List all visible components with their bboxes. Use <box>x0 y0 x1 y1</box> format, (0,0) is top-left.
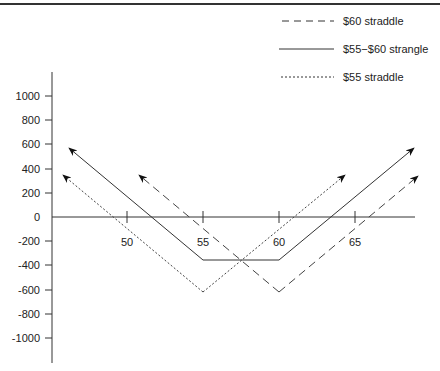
svg-text:55: 55 <box>197 236 209 248</box>
svg-text:600: 600 <box>22 138 40 150</box>
legend-label-60-straddle: $60 straddle <box>343 15 404 27</box>
svg-text:65: 65 <box>349 236 361 248</box>
svg-text:-1000: -1000 <box>12 332 40 344</box>
legend-label-55-straddle: $55 straddle <box>343 71 404 83</box>
series-55-straddle <box>63 175 345 292</box>
y-ticks <box>45 96 52 338</box>
svg-text:-200: -200 <box>18 235 40 247</box>
payoff-chart: $60 straddle $55−$60 strangle $55 stradd… <box>0 0 440 371</box>
svg-text:-800: -800 <box>18 308 40 320</box>
svg-text:-600: -600 <box>18 284 40 296</box>
svg-text:1000: 1000 <box>16 90 40 102</box>
svg-text:50: 50 <box>121 236 133 248</box>
series-60-straddle <box>139 175 418 292</box>
legend: $60 straddle $55−$60 strangle $55 stradd… <box>279 15 428 83</box>
svg-text:-400: -400 <box>18 259 40 271</box>
svg-text:0: 0 <box>34 211 40 223</box>
x-tick-labels: 50 55 60 65 <box>121 236 361 248</box>
svg-text:60: 60 <box>273 236 285 248</box>
svg-text:800: 800 <box>22 114 40 126</box>
svg-text:400: 400 <box>22 163 40 175</box>
svg-text:200: 200 <box>22 187 40 199</box>
legend-label-strangle: $55−$60 strangle <box>343 43 428 55</box>
y-tick-labels: 1000 800 600 400 200 0 -200 -400 -600 -8… <box>12 90 40 344</box>
